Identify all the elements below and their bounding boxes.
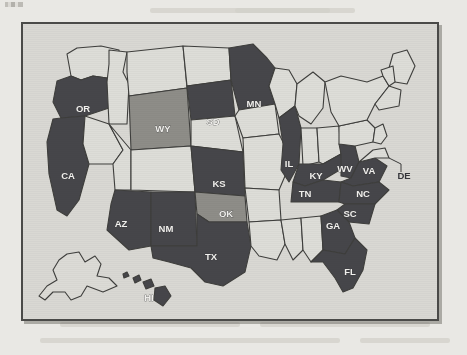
state-label-WV: WV [337, 163, 353, 174]
state-NM[interactable] [151, 192, 197, 246]
state-label-NM: NM [159, 223, 174, 234]
state-SD[interactable] [187, 80, 235, 120]
state-label-SD: SD [206, 116, 219, 127]
scan-speck [5, 2, 23, 7]
state-label-DE: DE [397, 170, 410, 181]
state-label-TX: TX [205, 251, 218, 262]
state-WY[interactable] [129, 88, 191, 150]
state-AR[interactable] [245, 188, 281, 222]
state-LA[interactable] [249, 220, 285, 260]
state-label-KS: KS [212, 178, 225, 189]
state-label-FL: FL [344, 266, 356, 277]
state-AZ[interactable] [107, 190, 151, 250]
state-CO[interactable] [131, 146, 195, 192]
state-MS[interactable] [281, 218, 303, 260]
state-label-AZ: AZ [115, 218, 128, 229]
state-callout-DE: DE [389, 158, 411, 181]
united-states-map: OR CA AZ WY NM SD KS OK TX MN IL KY TN G… [23, 24, 437, 319]
state-label-IL: IL [285, 158, 294, 169]
state-CA[interactable] [47, 116, 89, 216]
state-label-KY: KY [309, 170, 323, 181]
state-MO[interactable] [243, 134, 287, 190]
state-label-SC: SC [343, 208, 356, 219]
state-NJ[interactable] [373, 124, 387, 144]
state-label-VA: VA [363, 165, 376, 176]
state-label-MN: MN [247, 98, 262, 109]
state-label-OK: OK [219, 208, 233, 219]
state-label-TN: TN [299, 188, 312, 199]
map-figure-frame: OR CA AZ WY NM SD KS OK TX MN IL KY TN G… [21, 22, 439, 321]
state-label-CA: CA [61, 170, 75, 181]
state-IA[interactable] [235, 104, 279, 138]
state-label-NC: NC [356, 188, 370, 199]
state-label-OR: OR [76, 103, 90, 114]
state-ND[interactable] [183, 46, 231, 86]
state-label-GA: GA [326, 220, 340, 231]
map-canvas: OR CA AZ WY NM SD KS OK TX MN IL KY TN G… [23, 24, 437, 319]
state-label-WY: WY [155, 123, 171, 134]
state-label-HI: HI [144, 292, 154, 303]
state-ID[interactable] [107, 50, 129, 124]
state-MT[interactable] [127, 46, 187, 96]
state-AK[interactable] [39, 252, 117, 300]
state-MI[interactable] [295, 72, 325, 124]
state-IN[interactable] [301, 128, 319, 166]
